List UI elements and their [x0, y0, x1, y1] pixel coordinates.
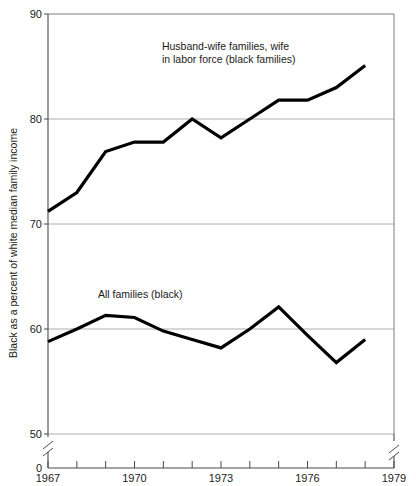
x-tick-label-1973: 1973 — [209, 472, 233, 484]
y-tick-label-70: 70 — [30, 218, 42, 230]
y-tick-label-60: 60 — [30, 323, 42, 335]
y-axis-title: Black as a percent of white median famil… — [7, 128, 19, 358]
annotation-all-families: All families (black) — [98, 288, 183, 300]
x-tick-label-1976: 1976 — [295, 472, 319, 484]
x-tick-label-1979: 1979 — [382, 472, 406, 484]
annotation-husband-wife: Husband-wife families, wifein labor forc… — [162, 40, 296, 65]
x-tick-label-1970: 1970 — [122, 472, 146, 484]
y-tick-label-80: 80 — [30, 113, 42, 125]
line-chart: 5060708090 19671970197319761979 0 Black … — [0, 0, 416, 486]
chart-container: 5060708090 19671970197319761979 0 Black … — [0, 0, 416, 486]
y-axis-zero-label: 0 — [36, 462, 42, 474]
y-tick-label-90: 90 — [30, 8, 42, 20]
y-tick-label-50: 50 — [30, 428, 42, 440]
